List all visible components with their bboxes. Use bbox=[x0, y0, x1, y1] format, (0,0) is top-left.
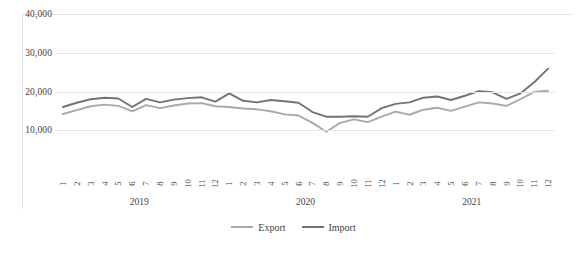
x-tick-month: 1 bbox=[389, 172, 403, 194]
x-tick-label: 12 bbox=[211, 173, 220, 195]
x-tick-month: 10 bbox=[347, 172, 361, 194]
y-tick-label: 20,000 bbox=[25, 87, 52, 97]
x-tick-month: 5 bbox=[111, 172, 125, 194]
x-tick-month: 9 bbox=[167, 172, 181, 194]
x-tick-month: 5 bbox=[444, 172, 458, 194]
x-tick-month: 3 bbox=[250, 172, 264, 194]
x-tick-label: 6 bbox=[128, 173, 137, 195]
x-tick-month: 12 bbox=[375, 172, 389, 194]
x-tick-label: 4 bbox=[433, 173, 442, 195]
x-tick-label: 2 bbox=[239, 173, 248, 195]
plot-area bbox=[56, 14, 555, 169]
x-tick-label: 2 bbox=[72, 173, 81, 195]
x-tick-label: 5 bbox=[447, 173, 456, 195]
x-tick-label: 11 bbox=[363, 173, 372, 195]
x-axis-year-label: 2021 bbox=[452, 196, 492, 208]
x-tick-label: 3 bbox=[253, 173, 262, 195]
y-tick-label: 10,000 bbox=[25, 125, 52, 135]
x-tick-month: 9 bbox=[500, 172, 514, 194]
gridline bbox=[56, 130, 555, 131]
x-tick-label: 11 bbox=[197, 173, 206, 195]
legend-swatch-export bbox=[231, 226, 253, 228]
series-line-export bbox=[63, 91, 548, 132]
x-tick-label: 5 bbox=[280, 173, 289, 195]
x-tick-month: 2 bbox=[236, 172, 250, 194]
x-axis-year-label: 2019 bbox=[119, 196, 159, 208]
x-tick-label: 1 bbox=[58, 173, 67, 195]
x-tick-month: 3 bbox=[84, 172, 98, 194]
x-tick-label: 8 bbox=[156, 173, 165, 195]
x-tick-month: 2 bbox=[403, 172, 417, 194]
x-tick-label: 10 bbox=[350, 173, 359, 195]
x-tick-label: 9 bbox=[169, 173, 178, 195]
x-tick-month: 8 bbox=[486, 172, 500, 194]
x-tick-label: 11 bbox=[530, 173, 539, 195]
x-tick-month: 4 bbox=[98, 172, 112, 194]
x-tick-month: 10 bbox=[513, 172, 527, 194]
x-tick-label: 12 bbox=[544, 173, 553, 195]
x-tick-month: 11 bbox=[195, 172, 209, 194]
x-axis-month-ticks: 1234567891011121234567891011121234567891… bbox=[56, 172, 555, 196]
legend-label: Import bbox=[329, 222, 356, 233]
x-tick-month: 7 bbox=[472, 172, 486, 194]
x-tick-label: 8 bbox=[488, 173, 497, 195]
legend-item-import[interactable]: Import bbox=[302, 222, 356, 233]
x-tick-month: 3 bbox=[416, 172, 430, 194]
x-tick-month: 11 bbox=[361, 172, 375, 194]
x-tick-label: 10 bbox=[516, 173, 525, 195]
x-tick-label: 4 bbox=[100, 173, 109, 195]
x-tick-label: 3 bbox=[86, 173, 95, 195]
x-tick-label: 9 bbox=[336, 173, 345, 195]
x-tick-month: 7 bbox=[139, 172, 153, 194]
gridline bbox=[56, 92, 555, 93]
y-tick-label: 40,000 bbox=[25, 9, 52, 19]
x-tick-label: 2 bbox=[405, 173, 414, 195]
x-tick-label: 4 bbox=[266, 173, 275, 195]
x-tick-label: 7 bbox=[308, 173, 317, 195]
legend-swatch-import bbox=[302, 226, 324, 228]
gridline bbox=[56, 14, 555, 15]
x-tick-month: 12 bbox=[541, 172, 555, 194]
x-tick-month: 8 bbox=[319, 172, 333, 194]
x-tick-month: 5 bbox=[278, 172, 292, 194]
y-axis: 10,00020,00030,00040,000 bbox=[0, 14, 52, 169]
chart-legend: ExportImport bbox=[0, 219, 587, 235]
x-tick-month: 6 bbox=[125, 172, 139, 194]
x-tick-label: 8 bbox=[322, 173, 331, 195]
legend-label: Export bbox=[258, 222, 285, 233]
x-tick-label: 9 bbox=[502, 173, 511, 195]
x-tick-month: 10 bbox=[181, 172, 195, 194]
x-tick-month: 7 bbox=[305, 172, 319, 194]
x-tick-month: 8 bbox=[153, 172, 167, 194]
x-tick-month: 1 bbox=[222, 172, 236, 194]
gridline bbox=[56, 53, 555, 54]
x-tick-label: 6 bbox=[294, 173, 303, 195]
x-tick-label: 1 bbox=[391, 173, 400, 195]
x-axis-year-label: 2020 bbox=[286, 196, 326, 208]
legend-item-export[interactable]: Export bbox=[231, 222, 285, 233]
x-tick-month: 9 bbox=[333, 172, 347, 194]
x-tick-month: 6 bbox=[458, 172, 472, 194]
x-tick-month: 4 bbox=[430, 172, 444, 194]
x-tick-month: 4 bbox=[264, 172, 278, 194]
x-tick-label: 3 bbox=[419, 173, 428, 195]
x-tick-label: 5 bbox=[114, 173, 123, 195]
x-tick-label: 12 bbox=[377, 173, 386, 195]
x-tick-label: 6 bbox=[460, 173, 469, 195]
x-tick-month: 2 bbox=[70, 172, 84, 194]
x-tick-label: 10 bbox=[183, 173, 192, 195]
x-tick-label: 7 bbox=[142, 173, 151, 195]
x-tick-month: 6 bbox=[292, 172, 306, 194]
x-axis-year-labels: 201920202021 bbox=[56, 196, 555, 210]
x-tick-month: 1 bbox=[56, 172, 70, 194]
line-chart[interactable]: 10,00020,00030,00040,000 123456789101112… bbox=[0, 0, 587, 253]
y-tick-label: 30,000 bbox=[25, 48, 52, 58]
x-tick-label: 1 bbox=[225, 173, 234, 195]
x-tick-month: 11 bbox=[527, 172, 541, 194]
x-tick-label: 7 bbox=[474, 173, 483, 195]
x-tick-month: 12 bbox=[208, 172, 222, 194]
